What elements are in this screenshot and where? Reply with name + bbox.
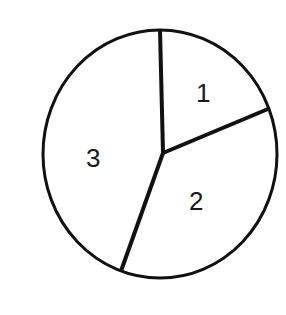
pie-diagram: 1 2 3 [0,0,286,315]
divider-bottom [121,153,163,271]
divider-right [163,109,268,153]
divider-top [160,30,163,153]
sector-label-2: 2 [189,186,203,216]
sector-label-3: 3 [86,143,100,173]
sector-label-1: 1 [196,78,210,108]
